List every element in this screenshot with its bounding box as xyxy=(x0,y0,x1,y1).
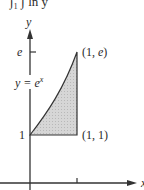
curve-label: y = ex xyxy=(14,75,44,90)
y-tick-label-e: e xyxy=(17,45,23,59)
x-axis-arrow-icon xyxy=(127,180,137,186)
x-axis-label: x xyxy=(140,176,144,190)
point-label-1-1: (1, 1) xyxy=(82,128,108,142)
header-fragment: ∫₁ ∫ ln y xyxy=(9,0,49,10)
y-axis-label: y xyxy=(25,15,32,29)
y-axis-arrow-icon xyxy=(27,29,33,39)
diagram-canvas: ∫₁ ∫ ln y y x e 1 y = ex (1, e) (1, 1) xyxy=(0,0,144,190)
point-label-1-e: (1, e) xyxy=(82,45,107,59)
y-tick-label-1: 1 xyxy=(19,128,25,142)
shaded-region xyxy=(30,52,77,135)
